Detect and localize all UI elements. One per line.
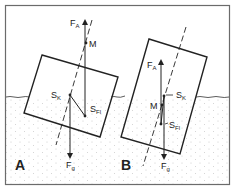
stability-diagram: FA M SK SFl Fg A FA M SK SFl Fg B [0, 0, 235, 190]
water-region [6, 97, 229, 184]
center-of-mass-point-b [163, 95, 166, 98]
center-of-buoyancy-point-b [160, 123, 163, 126]
metacenter-point-b [161, 104, 164, 107]
center-of-mass-point-a [69, 94, 72, 97]
center-of-buoyancy-point-a [84, 115, 87, 118]
label-m-b: M [150, 101, 158, 111]
label-m-a: M [89, 39, 97, 49]
panel-label-a: A [15, 157, 25, 173]
panel-label-b: B [121, 157, 131, 173]
metacenter-point-a [85, 42, 88, 45]
